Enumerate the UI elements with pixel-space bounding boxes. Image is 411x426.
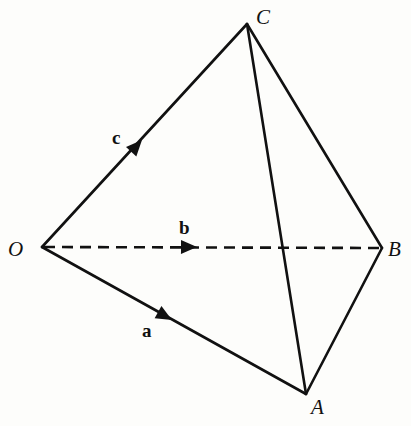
arrow-b-icon (181, 240, 197, 254)
vector-label-b: b (179, 217, 190, 238)
edge-CB (247, 24, 382, 248)
vector-label-a: a (142, 320, 152, 341)
vector-label-c: c (112, 127, 120, 148)
edge-OB-dashed (44, 247, 382, 248)
arrow-a-icon (155, 306, 176, 326)
point-label-C: C (256, 5, 271, 29)
tetrahedron-diagram: O C B A c b a (0, 0, 411, 426)
point-label-O: O (8, 237, 23, 261)
edge-OA (42, 247, 306, 394)
edge-OC (42, 24, 247, 247)
edge-CA (247, 24, 306, 394)
edge-AB (306, 248, 382, 394)
point-label-A: A (309, 395, 324, 419)
point-label-B: B (388, 237, 401, 261)
